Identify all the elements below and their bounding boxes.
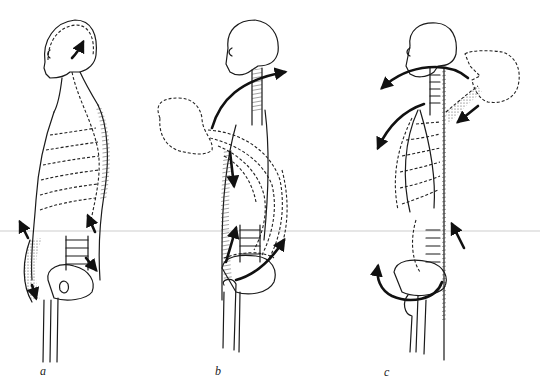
- figure-label-b: b: [215, 364, 221, 379]
- figure-b-illustration: [140, 0, 340, 389]
- figure-c-illustration: [340, 0, 540, 389]
- figure-c: [340, 0, 540, 389]
- figure-b: [140, 0, 340, 389]
- figure-label-a: a: [40, 364, 46, 379]
- figure-label-c: c: [384, 365, 389, 380]
